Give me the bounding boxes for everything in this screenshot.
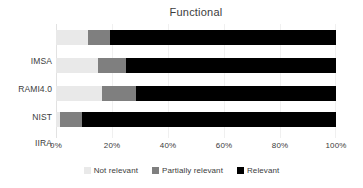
x-tick-0: 0%: [50, 141, 62, 150]
y-axis-category-labels: IMSA RAMI4.0 NIST IIRA: [0, 24, 52, 138]
legend-label-relevant: Relevant: [247, 166, 279, 175]
bar-segment-partially-relevant: [88, 30, 110, 45]
bar-row-rami40: [56, 58, 336, 73]
legend-item-relevant: Relevant: [237, 166, 279, 175]
x-tick-40: 40%: [160, 141, 176, 150]
bar-segment-relevant: [110, 30, 336, 45]
bar-segment-not-relevant: [56, 30, 88, 45]
chart-title: Functional: [56, 6, 336, 18]
y-axis-label-rami40: RAMI4.0: [4, 84, 52, 94]
bar-segment-not-relevant: [56, 58, 98, 73]
bar-segment-partially-relevant: [60, 112, 82, 127]
legend-label-partially-relevant: Partially relevant: [162, 166, 223, 175]
legend-label-not-relevant: Not relevant: [94, 166, 138, 175]
bar-segment-relevant: [126, 58, 336, 73]
legend-item-not-relevant: Not relevant: [84, 166, 138, 175]
stacked-bar-chart: Functional IMSA RAMI4.0 NIST IIRA: [0, 0, 363, 188]
bar-segment-partially-relevant: [102, 86, 136, 101]
bar-segment-relevant: [136, 86, 336, 101]
chart-legend: Not relevant Partially relevant Relevant: [0, 166, 363, 175]
y-axis-label-iira: IIRA: [4, 138, 52, 148]
bar-segment-not-relevant: [56, 86, 102, 101]
legend-item-partially-relevant: Partially relevant: [152, 166, 223, 175]
plot-area: [56, 24, 336, 138]
x-axis: 0% 20% 40% 60% 80% 100%: [56, 139, 336, 153]
bar-segment-relevant: [82, 112, 336, 127]
legend-swatch-icon: [152, 167, 159, 174]
bar-segment-partially-relevant: [98, 58, 126, 73]
bar-row-imsa: [56, 30, 336, 45]
x-tick-60: 60%: [216, 141, 232, 150]
legend-swatch-icon: [237, 167, 244, 174]
x-tick-100: 100%: [326, 141, 347, 150]
x-tick-80: 80%: [272, 141, 288, 150]
bar-row-iira: [56, 112, 336, 127]
x-tick-20: 20%: [104, 141, 120, 150]
legend-swatch-icon: [84, 167, 91, 174]
bar-row-nist: [56, 86, 336, 101]
y-axis-label-nist: NIST: [4, 112, 52, 122]
y-axis-label-imsa: IMSA: [4, 56, 52, 66]
